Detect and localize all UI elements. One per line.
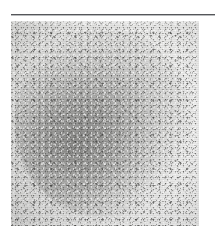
vignette-overlay (11, 21, 199, 226)
document-page (0, 0, 223, 226)
horizontal-rule-shadow (11, 15, 215, 16)
panel-top-highlight (11, 21, 199, 24)
figure-image-panel (11, 21, 199, 226)
